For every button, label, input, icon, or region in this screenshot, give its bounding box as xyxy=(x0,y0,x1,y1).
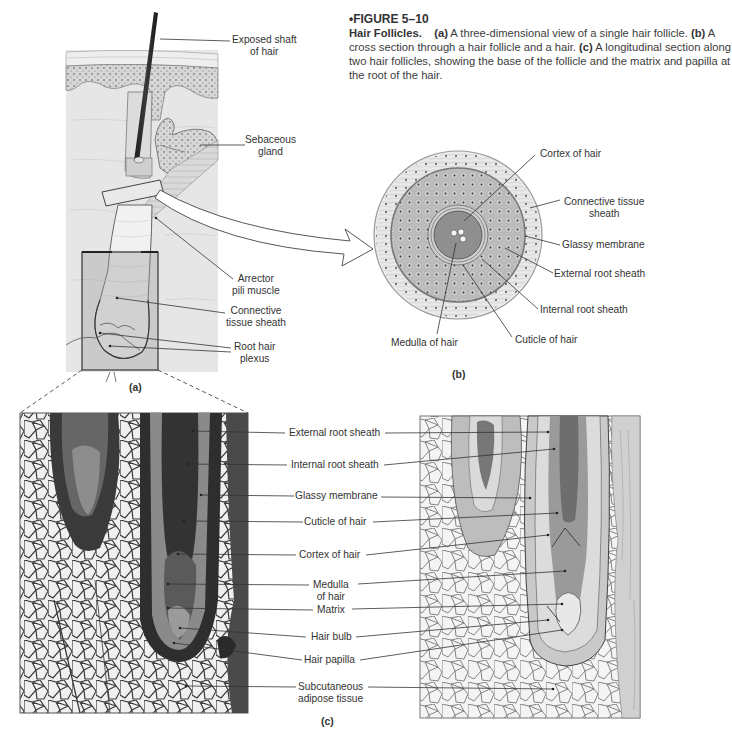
label-medulla-b: Medulla of hair xyxy=(391,337,458,349)
label-connective-tissue-sheath-b: Connective tissue sheath xyxy=(564,196,644,220)
label-line: tissue sheath xyxy=(226,317,286,329)
panel-c-tag: (c) xyxy=(321,715,334,727)
label-external-root-sheath-b: External root sheath xyxy=(554,268,645,280)
figure-number: •FIGURE 5–10 xyxy=(349,12,732,26)
panel-b-tag: (b) xyxy=(452,368,465,380)
label-root-hair-plexus: Root hair plexus xyxy=(234,341,275,365)
label-line: Connective tissue xyxy=(564,196,644,208)
label-medulla-c: Medulla of hair xyxy=(313,579,349,603)
label-line: pili muscle xyxy=(232,285,280,297)
caption-text-a: A three-dimensional view of a single hai… xyxy=(448,27,691,39)
label-line: Connective xyxy=(226,305,286,317)
label-external-root-sheath-c: External root sheath xyxy=(289,427,380,439)
label-cuticle-c: Cuticle of hair xyxy=(304,516,366,528)
label-internal-root-sheath-c: Internal root sheath xyxy=(291,459,379,471)
label-line: adipose tissue xyxy=(298,693,363,705)
panel-c-drawing xyxy=(420,416,640,718)
label-glassy-membrane-b: Glassy membrane xyxy=(562,239,645,251)
label-subcutaneous-adipose: Subcutaneous adipose tissue xyxy=(298,681,363,705)
label-connective-tissue-sheath-a: Connective tissue sheath xyxy=(226,305,286,329)
panel-a-drawing xyxy=(20,12,373,413)
label-cortex-c: Cortex of hair xyxy=(299,549,360,561)
panel-a-tag: (a) xyxy=(129,381,142,393)
panel-b-cross-section xyxy=(374,151,542,319)
label-line: plexus xyxy=(234,353,275,365)
label-line: sheath xyxy=(564,208,644,220)
label-line: gland xyxy=(245,146,296,158)
label-line: of hair xyxy=(232,46,297,58)
label-line: Arrector xyxy=(232,273,280,285)
label-matrix: Matrix xyxy=(317,604,345,616)
caption-tag-c: (c) xyxy=(579,41,593,53)
figure-caption: •FIGURE 5–10 Hair Follicles. (a) A three… xyxy=(349,12,732,82)
label-hair-bulb: Hair bulb xyxy=(311,631,352,643)
label-line: Exposed shaft xyxy=(232,34,297,46)
panel-c-micrograph xyxy=(20,413,248,713)
label-exposed-shaft: Exposed shaft of hair xyxy=(232,34,297,58)
label-line: Sebaceous xyxy=(245,134,296,146)
label-glassy-membrane-c: Glassy membrane xyxy=(295,490,378,502)
label-internal-root-sheath-b: Internal root sheath xyxy=(540,304,628,316)
caption-tag-a: (a) xyxy=(434,27,448,39)
figure-illustrations xyxy=(0,0,732,739)
label-cortex-b: Cortex of hair xyxy=(540,148,601,160)
label-line: of hair xyxy=(313,591,349,603)
label-line: Root hair xyxy=(234,341,275,353)
label-sebaceous-gland: Sebaceous gland xyxy=(245,134,296,158)
label-hair-papilla: Hair papilla xyxy=(304,654,355,666)
label-cuticle-b: Cuticle of hair xyxy=(515,334,577,346)
label-line: Subcutaneous xyxy=(298,681,363,693)
figure-title: Hair Follicles. xyxy=(349,27,422,39)
caption-tag-b: (b) xyxy=(691,27,705,39)
label-line: Medulla xyxy=(313,579,349,591)
label-arrector-pili: Arrector pili muscle xyxy=(232,273,280,297)
